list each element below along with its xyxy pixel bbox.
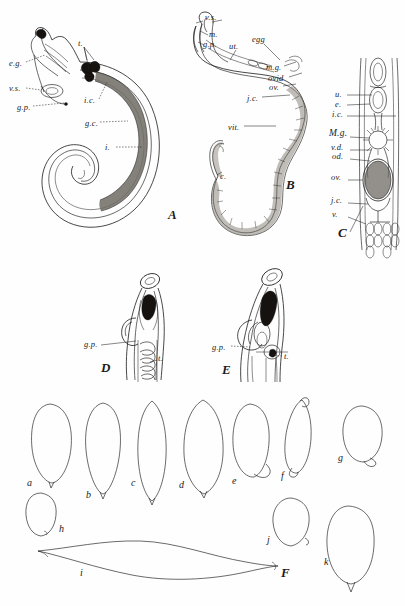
plate-drawing	[0, 0, 405, 606]
label-b-vit: vit.	[228, 123, 239, 132]
label-b-vs: v.s.	[205, 13, 217, 22]
egg-label-c: c	[131, 478, 136, 488]
label-c-v: v.	[332, 210, 338, 219]
label-c-ic: i.c.	[332, 110, 343, 119]
figure-letter-b: B	[286, 178, 295, 191]
label-b-jc: j.c.	[247, 94, 258, 103]
label-a-t: t.	[78, 39, 83, 48]
label-d-t: t.	[158, 354, 163, 363]
figure-letter-e: E	[222, 363, 231, 376]
figure-letter-c: C	[338, 226, 347, 239]
label-d-gp: g.p.	[84, 340, 98, 349]
egg-label-a: a	[27, 478, 32, 488]
label-c-ov: ov.	[331, 173, 341, 182]
figure-d-leaders	[101, 341, 157, 362]
figure-c-drawing	[347, 58, 399, 258]
figure-letter-d: D	[101, 361, 111, 374]
figure-e-drawing	[238, 265, 288, 382]
egg-label-d: d	[179, 480, 184, 490]
label-b-egg: egg	[252, 35, 265, 44]
figure-letter-f: F	[281, 566, 290, 579]
label-b-m: m.	[209, 30, 218, 39]
egg-label-b: b	[86, 490, 91, 500]
label-a-eg: e.g.	[9, 59, 22, 68]
label-b-ov: ov.	[269, 83, 279, 92]
label-c-mg: M.g.	[329, 129, 347, 139]
egg-label-e: e	[232, 476, 237, 486]
egg-label-j: j	[267, 535, 270, 545]
egg-label-i: i	[80, 568, 83, 578]
figure-d-drawing	[122, 271, 165, 382]
label-e-t: t.	[284, 352, 289, 361]
illustration-plate: e.g. v.s. g.p. t. i.c. g.c. i. A v.s. m.…	[0, 0, 405, 606]
label-c-u: u.	[335, 90, 342, 99]
egg-label-f: f	[281, 471, 284, 481]
label-a-gp: g.p.	[17, 103, 31, 112]
label-a-ic: i.c.	[84, 96, 95, 105]
figure-letter-a: A	[168, 208, 177, 221]
label-b-mg: m.g.	[266, 63, 281, 72]
label-a-gc: g.c.	[85, 119, 98, 128]
label-a-vs: v.s.	[9, 84, 21, 93]
label-c-od: od.	[332, 152, 343, 161]
label-e-gp: g.p.	[212, 343, 226, 352]
egg-label-k: k	[324, 557, 329, 567]
egg-label-g: g	[338, 453, 343, 463]
label-b-c: c.	[220, 172, 226, 181]
label-c-jc: j.c.	[331, 196, 342, 205]
label-a-i: i.	[105, 143, 110, 152]
label-b-ut: ut.	[229, 42, 238, 51]
label-c-e: e.	[335, 100, 341, 109]
label-b-gp: g.p.	[203, 40, 217, 49]
egg-label-h: h	[59, 524, 64, 534]
